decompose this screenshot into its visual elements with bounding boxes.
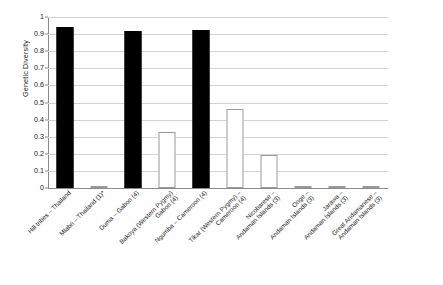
bar bbox=[91, 186, 108, 188]
bar-slot bbox=[116, 17, 150, 188]
bar-slot bbox=[252, 17, 286, 188]
x-axis-labels: Hill tribes – ThailandMlabri – Thailand … bbox=[48, 189, 388, 285]
bar bbox=[363, 186, 380, 188]
y-axis-title: Genetic Diversity bbox=[21, 14, 30, 124]
bar-chart: Genetic Diversity 10.90.80.70.60.50.40.3… bbox=[0, 0, 443, 285]
bar-slot bbox=[48, 17, 82, 188]
bar bbox=[227, 109, 244, 188]
plot-area: 10.90.80.70.60.50.40.30.20.10 bbox=[48, 17, 388, 188]
y-tick-label: 0.8 bbox=[34, 48, 44, 55]
bar bbox=[329, 186, 346, 188]
bar-slot bbox=[286, 17, 320, 188]
bar-slot bbox=[218, 17, 252, 188]
bar bbox=[193, 30, 210, 188]
bar bbox=[261, 155, 278, 188]
bar bbox=[295, 186, 312, 188]
y-tick-label: 0.4 bbox=[34, 116, 44, 123]
y-tick-label: 0 bbox=[40, 184, 44, 191]
bar-slot bbox=[150, 17, 184, 188]
y-tick-label: 0.5 bbox=[34, 99, 44, 106]
bars-layer bbox=[48, 17, 388, 188]
bar bbox=[57, 27, 74, 188]
bar-slot bbox=[184, 17, 218, 188]
y-tick-label: 0.1 bbox=[34, 167, 44, 174]
bar-slot bbox=[82, 17, 116, 188]
bar-slot bbox=[354, 17, 388, 188]
y-tick-label: 0.7 bbox=[34, 65, 44, 72]
y-tick-label: 1 bbox=[40, 13, 44, 20]
y-tick-label: 0.3 bbox=[34, 133, 44, 140]
bar bbox=[159, 132, 176, 188]
y-tick-label: 0.2 bbox=[34, 150, 44, 157]
y-tick-label: 0.6 bbox=[34, 82, 44, 89]
bar-slot bbox=[320, 17, 354, 188]
y-tick-label: 0.9 bbox=[34, 30, 44, 37]
bar bbox=[125, 31, 142, 188]
